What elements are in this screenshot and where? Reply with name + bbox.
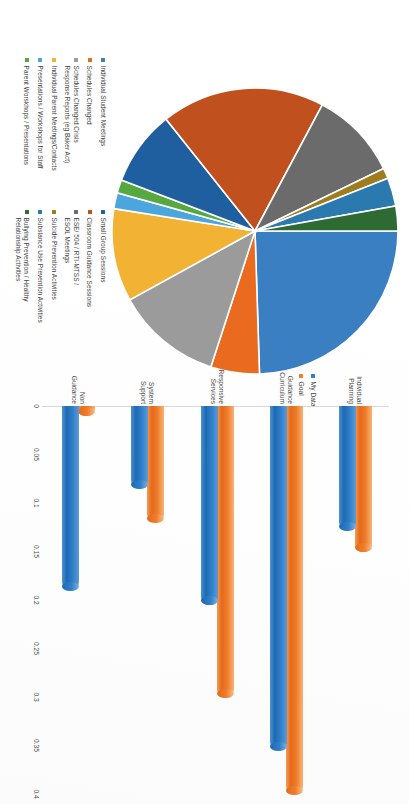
bar-end-cap <box>286 786 303 795</box>
value-axis-ticks: 00.050.10.150.20.250.30.350.4 <box>22 406 40 794</box>
pie-legend-label: Classroom Guidance Sessions <box>85 218 93 308</box>
bar-goal <box>147 406 164 522</box>
value-axis-tick-label: 0 <box>33 404 40 408</box>
pie-legend-label: Presentations / Workshops for Staff <box>36 66 44 169</box>
pie-legend-item[interactable]: Individual Student Meetings <box>99 58 107 206</box>
bar-goal <box>78 406 95 416</box>
value-axis-tick-label: 0.1 <box>33 498 40 507</box>
bar-group: System Support <box>111 406 180 794</box>
bar-goal <box>355 406 372 552</box>
bar-goal <box>217 406 234 697</box>
pie-legend-item[interactable]: Classroom Guidance Sessions <box>85 210 93 358</box>
bar-category-label: Responsive Services <box>209 362 225 404</box>
legend-swatch-icon <box>101 210 105 214</box>
legend-swatch-icon <box>311 374 315 378</box>
bar-category-label: System Support <box>139 362 155 404</box>
bar-goal <box>286 406 303 794</box>
pie-legend-item[interactable]: Presentations / Workshops for Staff <box>36 58 44 206</box>
value-axis-tick-label: 0.15 <box>33 545 40 558</box>
legend-swatch-icon <box>101 58 105 62</box>
legend-swatch-icon <box>74 58 78 62</box>
pie-legend-label: Suicide Prevention Activities <box>49 218 57 300</box>
legend-swatch-icon <box>25 210 29 214</box>
value-axis-tick-label: 0.25 <box>33 642 40 655</box>
pie-legend-label: Substance Use Prevention Activities <box>36 218 44 323</box>
pie-legend-label: Parent Worskhops / Presentations <box>22 66 30 165</box>
bar-legend-label: Goal <box>297 382 305 396</box>
pie-legend-item[interactable]: Small Group Sessions <box>99 210 107 358</box>
pie-legend-item[interactable]: ESE/ 504 / RTI-MTSS / ESOL Meetings <box>63 210 80 358</box>
pie-legend-item[interactable]: Suicide Prevention Activities <box>49 210 57 358</box>
legend-swatch-icon <box>74 210 78 214</box>
pie-svg <box>109 85 401 377</box>
bar-my-data <box>339 406 356 530</box>
bar-end-cap <box>270 742 287 751</box>
legend-swatch-icon <box>52 58 56 62</box>
pie-legend-item[interactable]: Schedules Changed <box>85 58 93 206</box>
pie-legend-label: ESE/ 504 / RTI-MTSS / ESOL Meetings <box>63 218 80 286</box>
bar-legend-label: My Data <box>309 382 317 407</box>
pie-legend-label: Schedules Changed Crisis Response Report… <box>63 66 80 164</box>
bar-category-label: Guidance Curriculum <box>278 362 294 404</box>
pie-legend-label: Individual Parent Meetings/Contacts <box>49 66 57 171</box>
legend-swatch-icon <box>52 210 56 214</box>
pie-legend-label: Schedules Changed <box>85 66 93 125</box>
pie-legend-item[interactable]: Bullying Prevention / Healthy Relationsh… <box>14 210 31 358</box>
legend-swatch-icon <box>38 58 42 62</box>
legend-swatch-icon <box>299 374 303 378</box>
legend-swatch-icon <box>88 58 92 62</box>
pie-legend-column-1: Individual Student MeetingsSchedules Cha… <box>17 58 107 206</box>
value-axis-tick-label: 0.2 <box>33 595 40 604</box>
bar-end-cap <box>355 543 372 552</box>
bar-my-data <box>201 406 218 605</box>
value-axis-tick-label: 0.4 <box>33 789 40 798</box>
pie-chart-panel: Individual Student MeetingsSchedules Cha… <box>0 0 409 360</box>
pie-slice <box>255 231 398 374</box>
pie-chart-graphic <box>109 85 401 377</box>
bar-group: Individual Planning <box>320 406 389 794</box>
legend-swatch-icon <box>88 210 92 214</box>
bar-my-data <box>62 406 79 590</box>
value-axis-tick-label: 0.05 <box>33 448 40 461</box>
bar-chart-panel: My DataGoal Individual PlanningGuidance … <box>0 360 409 804</box>
bar-my-data <box>131 406 148 488</box>
bar-category-label: Non Guidance <box>70 362 86 404</box>
bar-end-cap <box>78 407 95 416</box>
pie-chart-legend: Individual Student MeetingsSchedules Cha… <box>2 58 107 358</box>
pie-legend-column-2: Small Group SessionsClassroom Guidance S… <box>8 210 107 358</box>
bar-group: Non Guidance <box>42 406 111 794</box>
bar-category-label: Individual Planning <box>347 362 363 404</box>
bar-group: Guidance Curriculum <box>250 406 319 794</box>
pie-legend-label: Individual Student Meetings <box>99 66 107 147</box>
pie-legend-item[interactable]: Substance Use Prevention Activities <box>36 210 44 358</box>
bar-end-cap <box>147 514 164 523</box>
pie-legend-item[interactable]: Schedules Changed Crisis Response Report… <box>63 58 80 206</box>
pie-legend-label: Bullying Prevention / Healthy Relationsh… <box>14 218 31 302</box>
bar-legend-item[interactable]: My Data <box>309 374 317 407</box>
legend-swatch-icon <box>25 58 29 62</box>
pie-legend-item[interactable]: Individual Parent Meetings/Contacts <box>49 58 57 206</box>
bar-group: Responsive Services <box>181 406 250 794</box>
rotated-page-canvas: Individual Student MeetingsSchedules Cha… <box>0 0 409 804</box>
bar-end-cap <box>201 596 218 605</box>
bar-plot-area: Individual PlanningGuidance CurriculumRe… <box>42 406 389 794</box>
bar-end-cap <box>131 480 148 489</box>
bar-my-data <box>270 406 287 750</box>
bar-end-cap <box>339 522 356 531</box>
pie-legend-label: Small Group Sessions <box>99 218 107 283</box>
value-axis-tick-label: 0.35 <box>33 739 40 752</box>
value-axis-tick-label: 0.3 <box>33 692 40 701</box>
legend-swatch-icon <box>38 210 42 214</box>
bar-end-cap <box>62 582 79 591</box>
bar-legend-item[interactable]: Goal <box>297 374 305 407</box>
bar-chart-legend: My DataGoal <box>293 374 317 407</box>
pie-legend-item[interactable]: Parent Worskhops / Presentations <box>22 58 30 206</box>
bar-end-cap <box>217 689 234 698</box>
